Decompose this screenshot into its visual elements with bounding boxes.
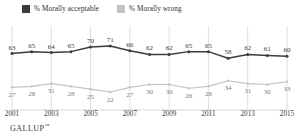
data-value-label: 70: [87, 37, 95, 45]
data-value-label: 27: [9, 91, 17, 99]
data-point-marker: [168, 83, 170, 85]
data-point-marker: [128, 49, 131, 52]
data-point-marker: [227, 80, 229, 82]
data-point-marker: [129, 86, 131, 88]
data-point-marker: [69, 50, 72, 53]
x-tick-label-2011: 2011: [201, 110, 215, 118]
legend-label-morally-wrong: % Morally wrong: [129, 5, 182, 13]
data-point-marker: [266, 83, 268, 85]
data-value-label: 71: [107, 36, 115, 44]
data-value-label: 28: [205, 90, 213, 98]
x-tick-label-2003: 2003: [44, 110, 58, 118]
grid-lines: [12, 26, 287, 110]
data-point-marker: [70, 85, 72, 87]
square-swatch-light-icon: [117, 5, 125, 13]
data-point-marker: [188, 87, 190, 89]
x-axis-tick-labels: 20012003200520072009201120132015: [0, 110, 299, 122]
data-point-marker: [207, 50, 210, 53]
data-point-marker: [89, 45, 92, 48]
data-value-label: 61: [264, 45, 272, 53]
chart-svg: 6365646570716662626565586261602728312825…: [0, 20, 299, 112]
data-value-label: 60: [284, 46, 292, 54]
legend-item-morally-acceptable: % Morally acceptable: [22, 5, 99, 13]
data-point-marker: [89, 88, 91, 90]
data-value-label: 30: [146, 88, 154, 96]
x-tick-label-2005: 2005: [83, 110, 97, 118]
x-tick-label-2001: 2001: [5, 110, 19, 118]
data-value-label: 30: [264, 88, 272, 96]
data-value-label: 28: [28, 90, 36, 98]
data-point-marker: [109, 91, 111, 93]
gallup-attribution: GALLUP™: [10, 123, 50, 133]
data-value-label: 62: [146, 44, 154, 52]
data-point-marker: [227, 57, 230, 60]
line-chart-plot-area: 6365646570716662626565586261602728312825…: [0, 20, 299, 112]
data-point-marker: [109, 45, 112, 48]
square-swatch-dark-icon: [22, 5, 30, 13]
data-point-marker: [30, 85, 32, 87]
data-point-marker: [148, 53, 151, 56]
data-value-label: 65: [67, 42, 75, 50]
data-value-label: 34: [225, 84, 233, 92]
data-point-marker: [286, 80, 288, 82]
data-value-label: 28: [67, 90, 75, 98]
data-point-marker: [207, 85, 209, 87]
series-morally-acceptable: 636564657071666262656558626160: [9, 36, 292, 60]
data-value-label: 27: [126, 91, 134, 99]
data-value-label: 66: [126, 41, 134, 49]
data-value-label: 65: [205, 42, 213, 50]
data-point-marker: [30, 50, 33, 53]
data-value-label: 30: [166, 88, 174, 96]
data-value-label: 26: [185, 92, 193, 100]
data-point-marker: [247, 82, 249, 84]
data-point-marker: [246, 53, 249, 56]
chart-legend: % Morally acceptable % Morally wrong: [22, 3, 182, 15]
data-point-marker: [266, 54, 269, 57]
x-tick-label-2013: 2013: [241, 110, 255, 118]
x-tick-label-2015: 2015: [280, 110, 294, 118]
data-value-label: 58: [225, 48, 233, 56]
data-point-marker: [187, 50, 190, 53]
trademark-icon: ™: [45, 123, 50, 128]
data-value-label: 22: [107, 96, 115, 104]
data-point-marker: [148, 83, 150, 85]
data-value-label: 33: [284, 85, 292, 93]
data-value-label: 31: [48, 87, 56, 95]
data-value-label: 65: [185, 42, 193, 50]
x-tick-label-2009: 2009: [162, 110, 176, 118]
gallup-brand-text: GALLUP: [10, 124, 45, 133]
data-value-label: 31: [244, 87, 252, 95]
data-point-marker: [50, 51, 53, 54]
series-morally-wrong: 272831282522273030262834313033: [9, 80, 292, 104]
data-value-label: 62: [244, 44, 252, 52]
legend-label-morally-acceptable: % Morally acceptable: [34, 5, 99, 13]
data-point-marker: [168, 53, 171, 56]
x-tick-label-2007: 2007: [123, 110, 137, 118]
data-point-marker: [11, 86, 13, 88]
data-value-label: 63: [9, 44, 17, 52]
data-value-label: 64: [48, 43, 56, 51]
data-point-marker: [286, 55, 289, 58]
data-point-marker: [50, 82, 52, 84]
data-value-label: 65: [28, 42, 36, 50]
data-value-label: 25: [87, 93, 95, 101]
data-value-label: 62: [166, 44, 174, 52]
data-point-marker: [11, 52, 14, 55]
legend-item-morally-wrong: % Morally wrong: [117, 5, 182, 13]
